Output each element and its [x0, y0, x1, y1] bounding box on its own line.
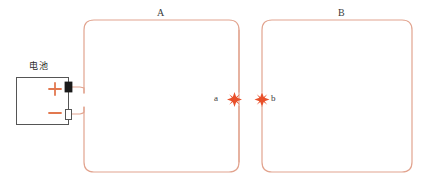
- battery-terminal-positive: [65, 82, 72, 92]
- node-label-b: b: [271, 94, 276, 103]
- wire-battery-negative-lead: [72, 107, 84, 114]
- wire-loop-b: [262, 20, 412, 172]
- circuit-diagram-canvas: A B a b 电池: [0, 0, 424, 189]
- wire-battery-positive-lead: [72, 87, 84, 93]
- battery-label: 电池: [29, 62, 48, 71]
- circuit-diagram-svg: [0, 0, 424, 189]
- node-label-a: a: [214, 94, 218, 103]
- loop-label-b: B: [338, 8, 345, 18]
- star-node-icon-b: [255, 92, 270, 107]
- loop-label-a: A: [157, 8, 164, 18]
- battery-terminal-negative: [66, 110, 72, 120]
- star-node-icon-a: [227, 92, 242, 107]
- battery-body: [17, 78, 69, 125]
